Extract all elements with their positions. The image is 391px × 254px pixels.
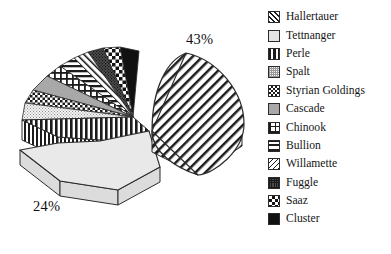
legend-label-hallertauer: Hallertauer bbox=[286, 11, 338, 23]
data-label-hallertauer: 43% bbox=[186, 31, 213, 48]
legend-swatch-cluster-icon bbox=[268, 213, 280, 225]
legend-label-perle: Perle bbox=[286, 48, 310, 60]
legend-item-chinook[interactable]: Chinook bbox=[268, 118, 391, 136]
legend-label-fuggle: Fuggle bbox=[286, 177, 318, 189]
legend-item-willamette[interactable]: Willamette bbox=[268, 155, 391, 173]
legend-item-tettnanger[interactable]: Tettnanger bbox=[268, 26, 391, 44]
legend-item-hallertauer[interactable]: Hallertauer bbox=[268, 8, 391, 26]
legend-swatch-saaz-icon bbox=[268, 195, 280, 207]
legend-label-cluster: Cluster bbox=[286, 213, 320, 225]
pie-svg bbox=[0, 0, 262, 254]
legend-item-styrian-goldings[interactable]: Styrian Goldings bbox=[268, 82, 391, 100]
slice-top-hallertauer bbox=[152, 53, 244, 175]
legend-swatch-perle-icon bbox=[268, 48, 280, 60]
legend-item-fuggle[interactable]: Fuggle bbox=[268, 174, 391, 192]
legend-item-cluster[interactable]: Cluster bbox=[268, 210, 391, 228]
pie-chart-graphic: 43% 24% bbox=[0, 0, 262, 254]
legend-label-chinook: Chinook bbox=[286, 122, 326, 134]
chart-legend: Hallertauer Tettnanger Perle Spalt Styri… bbox=[268, 8, 391, 248]
legend-label-saaz: Saaz bbox=[286, 195, 308, 207]
legend-swatch-tettnanger-icon bbox=[268, 30, 280, 42]
legend-swatch-fuggle-icon bbox=[268, 177, 280, 189]
legend-item-saaz[interactable]: Saaz bbox=[268, 192, 391, 210]
pie-chart-figure: 43% 24% Hallertauer Tettnanger Perle Spa… bbox=[0, 0, 391, 254]
legend-swatch-styrian-goldings-icon bbox=[268, 85, 280, 97]
legend-swatch-willamette-icon bbox=[268, 158, 280, 170]
legend-label-styrian-goldings: Styrian Goldings bbox=[286, 85, 365, 97]
legend-item-perle[interactable]: Perle bbox=[268, 45, 391, 63]
legend-label-cascade: Cascade bbox=[286, 103, 325, 115]
legend-swatch-chinook-icon bbox=[268, 122, 280, 134]
legend-label-bullion: Bullion bbox=[286, 140, 321, 152]
legend-swatch-hallertauer-icon bbox=[268, 11, 280, 23]
legend-item-spalt[interactable]: Spalt bbox=[268, 63, 391, 81]
legend-item-cascade[interactable]: Cascade bbox=[268, 100, 391, 118]
legend-item-bullion[interactable]: Bullion bbox=[268, 137, 391, 155]
data-label-tettnanger: 24% bbox=[33, 198, 60, 215]
legend-label-spalt: Spalt bbox=[286, 66, 310, 78]
legend-label-tettnanger: Tettnanger bbox=[286, 30, 335, 42]
legend-label-willamette: Willamette bbox=[286, 158, 337, 170]
legend-swatch-bullion-icon bbox=[268, 140, 280, 152]
legend-swatch-cascade-icon bbox=[268, 103, 280, 115]
legend-swatch-spalt-icon bbox=[268, 66, 280, 78]
